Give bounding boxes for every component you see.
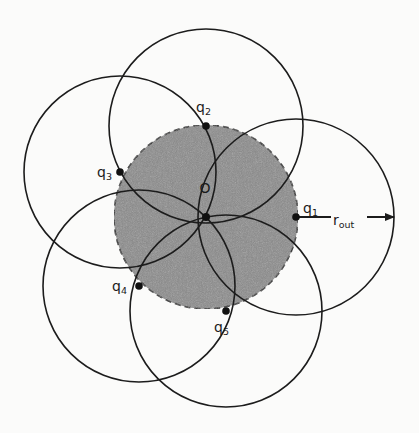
- label-q3: q3: [97, 164, 112, 182]
- point-q5: [222, 307, 230, 315]
- point-q4: [135, 282, 143, 290]
- center-point: [202, 213, 210, 221]
- point-q1: [292, 213, 300, 221]
- label-q4: q4: [112, 278, 127, 296]
- label-q1: q1: [303, 200, 318, 218]
- label-q5: q5: [214, 319, 229, 337]
- label-q2: q2: [196, 99, 211, 117]
- coverage-diagram: O q1q2q3q4q5 rout: [0, 0, 419, 433]
- center-label: O: [199, 180, 210, 196]
- point-q2: [202, 122, 210, 130]
- point-q3: [116, 168, 124, 176]
